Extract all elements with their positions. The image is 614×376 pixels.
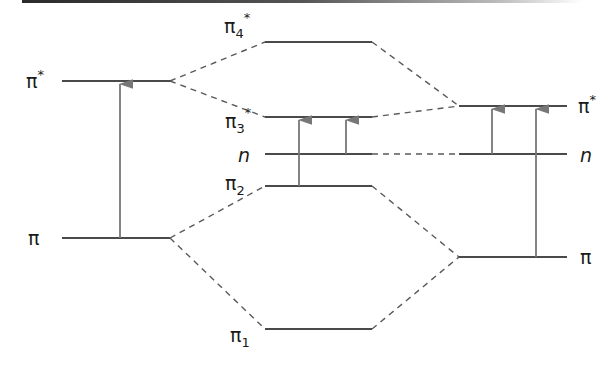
label-right-n: n bbox=[580, 144, 592, 166]
label-left-pi-star: π* bbox=[26, 67, 44, 92]
dash-pi3-right-pistar bbox=[372, 106, 459, 117]
dash-pi2-right-pi bbox=[372, 186, 459, 257]
label-n-mid: n bbox=[238, 144, 250, 166]
energy-levels bbox=[62, 42, 567, 329]
label-pi2: π2 bbox=[225, 172, 245, 198]
dash-pi1-right-pi bbox=[372, 257, 459, 329]
label-pi3-star: π3* bbox=[225, 105, 252, 136]
dash-left-pistar-pi4 bbox=[170, 42, 265, 81]
label-left-pi: π bbox=[28, 227, 39, 249]
dash-left-pi-pi1 bbox=[170, 238, 265, 329]
label-right-pi-star: π* bbox=[578, 92, 596, 117]
mo-diagram: π* π π4* π3* n π2 π1 π* n π bbox=[0, 0, 614, 376]
dash-pi4-right-pistar bbox=[372, 42, 459, 106]
dash-left-pi-pi2 bbox=[170, 186, 265, 238]
label-right-pi: π bbox=[580, 246, 591, 268]
label-pi4-star: π4* bbox=[224, 10, 251, 41]
label-pi1: π1 bbox=[230, 324, 250, 350]
